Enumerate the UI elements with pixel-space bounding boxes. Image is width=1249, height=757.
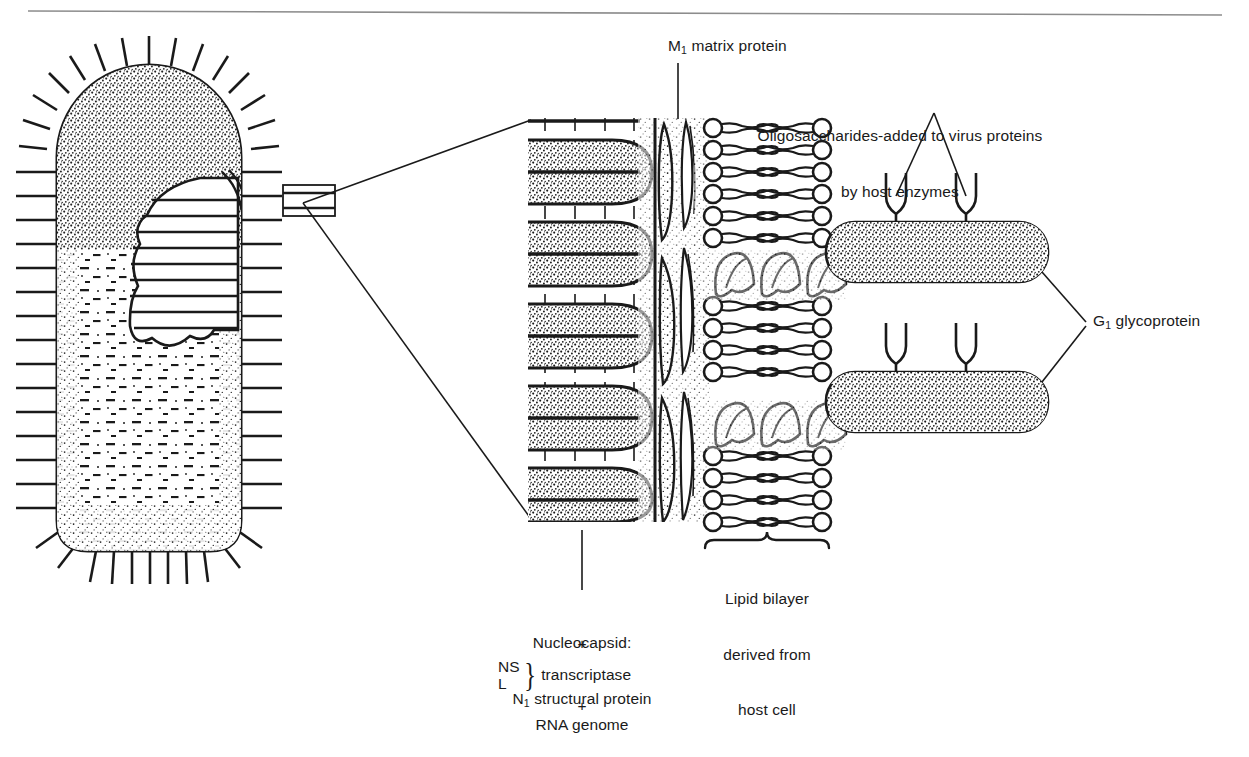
label-plus-sign-one: + <box>482 635 682 654</box>
label-m1-suffix: matrix protein <box>687 37 787 54</box>
matrix-protein-layer <box>638 118 710 522</box>
label-m1-matrix-protein: M1 matrix protein <box>668 37 787 56</box>
label-lipid-bilayer-line2: derived from <box>703 646 831 665</box>
label-oligosaccharides: Oligosaccharides-added to virus proteins… <box>758 90 1043 238</box>
label-g1-prefix: G <box>1093 312 1105 329</box>
lipid-bilayer-brace <box>705 532 829 548</box>
label-oligosaccharides-line2: by host enzymes <box>758 183 1043 202</box>
transcriptase-component-l: L <box>498 675 520 692</box>
label-oligosaccharides-line1: Oligosaccharides-added to virus proteins <box>758 127 1043 146</box>
label-transcriptase-group: NS L } transcriptase <box>498 658 631 692</box>
label-m1-subscript: 1 <box>681 44 687 56</box>
label-g1-subscript: 1 <box>1105 319 1111 331</box>
virus-particle <box>16 36 335 584</box>
label-plus-sign-two: + <box>482 697 682 716</box>
virus-structure-figure: M1 matrix protein Oligosaccharides-added… <box>0 0 1249 757</box>
glycoprotein-spikes <box>826 222 1048 432</box>
magnification-leader-lines <box>303 120 531 519</box>
label-g1-glycoprotein: G1 glycoprotein <box>1093 312 1200 331</box>
label-g1-suffix: glycoprotein <box>1111 312 1200 329</box>
label-m1-prefix: M <box>668 37 681 54</box>
page-header-rule <box>28 11 1222 15</box>
curly-brace-icon: } <box>524 660 536 690</box>
label-transcriptase: transcriptase <box>541 666 631 685</box>
nucleocapsid-coils <box>528 118 652 522</box>
label-lipid-bilayer-line1: Lipid bilayer <box>703 590 831 609</box>
label-lipid-bilayer: Lipid bilayer derived from host cell <box>703 553 831 757</box>
transcriptase-components: NS L <box>498 658 520 692</box>
label-lipid-bilayer-line3: host cell <box>703 701 831 720</box>
label-rna-genome: RNA genome <box>482 716 682 735</box>
transcriptase-component-ns: NS <box>498 658 520 675</box>
